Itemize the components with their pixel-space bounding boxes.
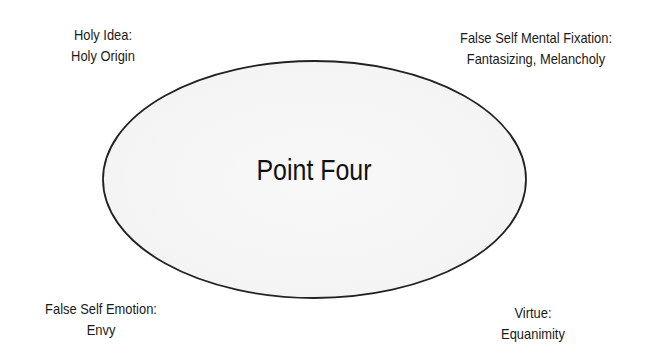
virtue-value: Equanimity <box>501 323 565 344</box>
holy-idea-label: Holy Idea: Holy Origin <box>71 24 135 66</box>
false-self-emotion-value: Envy <box>45 319 157 340</box>
holy-idea-title: Holy Idea: <box>71 24 135 45</box>
virtue-title: Virtue: <box>501 302 565 323</box>
holy-idea-value: Holy Origin <box>71 45 135 66</box>
center-point-label: Point Four <box>256 153 371 187</box>
mental-fixation-title: False Self Mental Fixation: <box>460 27 612 48</box>
false-self-emotion-title: False Self Emotion: <box>45 298 157 319</box>
false-self-emotion-label: False Self Emotion: Envy <box>45 298 157 340</box>
mental-fixation-value: Fantasizing, Melancholy <box>460 48 612 69</box>
mental-fixation-label: False Self Mental Fixation: Fantasizing,… <box>460 27 612 69</box>
diagram-canvas: Point Four Holy Idea: Holy Origin False … <box>0 0 660 364</box>
virtue-label: Virtue: Equanimity <box>501 302 565 344</box>
